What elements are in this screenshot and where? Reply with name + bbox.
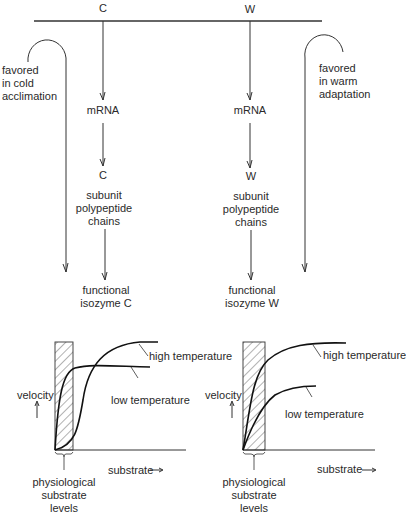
graph-c-velocity-label: velocity [17,389,54,402]
graph-w-high-temp-label: high temperature [323,349,406,362]
physiological-range-hatch [55,342,73,450]
mrna-w-label: mRNA [230,104,270,117]
subunit-w-letter: W [243,170,259,183]
mrna-c-label: mRNA [83,104,123,117]
pathway-c-arrows [100,21,107,280]
graph-c-low-temp-label: low temperature [111,394,190,407]
isozyme-w-label: functional isozyme W [222,284,282,310]
graph-c-high-temp-label: high temperature [149,350,232,363]
subunit-c-label: subunit polypeptide chains [70,189,138,228]
subunit-c-letter: C [96,169,110,182]
graph-w-low-temp-label: low temperature [285,408,364,421]
graph-w-physiological-label: physiological substrate levels [220,476,288,515]
graph-w-velocity-label: velocity [205,389,242,402]
graph-w-substrate-label: substrate [317,463,362,476]
warm-adaptation-note: favored in warm adaptation [319,62,370,101]
cold-acclimation-note: favored in cold acclimation [2,64,57,103]
subunit-w-label: subunit polypeptide chains [217,190,285,229]
isozyme-c-label: functional isozyme C [76,284,136,310]
pathway-w-arrows [247,21,253,280]
gene-w-label: W [242,3,258,16]
gene-c-label: C [96,2,110,15]
graph-c-substrate-label: substrate [108,464,153,477]
graph-c-physiological-label: physiological substrate levels [30,476,98,515]
